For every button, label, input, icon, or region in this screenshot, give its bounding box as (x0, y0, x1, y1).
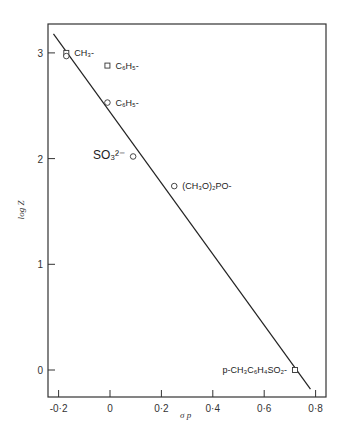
y-tick-label: 2 (37, 154, 43, 165)
fit-line (53, 34, 310, 389)
point-label: CH₃- (74, 48, 94, 58)
data-point-square (293, 368, 298, 373)
x-tick-label: 0·6 (257, 403, 272, 414)
data-point-circle (105, 100, 111, 106)
x-axis-label: σ p (180, 410, 192, 420)
plot-frame (48, 24, 326, 397)
y-tick-label: 3 (37, 48, 43, 59)
data-point-circle (130, 154, 136, 160)
point-label: C₆H₅- (115, 61, 138, 71)
x-tick-label: -0·2 (50, 403, 68, 414)
data-point-circle (171, 183, 177, 189)
point-label: SO₃²⁻ (93, 148, 125, 162)
y-tick-label: 1 (37, 259, 43, 270)
point-label: p-CH₃C₆H₄SO₂- (223, 365, 287, 375)
y-axis-label: log Z (16, 200, 26, 220)
point-label: (CH₃O)₂PO- (182, 181, 231, 191)
data-point-square (105, 63, 110, 68)
y-tick-label: 0 (37, 365, 43, 376)
chart: -0·200·20·40·60·8 0123 CH₃-C₆H₅-C₆H₅-SO₃… (0, 0, 344, 443)
x-tick-label: 0·8 (308, 403, 323, 414)
point-label: C₆H₅- (115, 98, 138, 108)
data-point-circle (64, 53, 70, 59)
x-tick-label: 0 (107, 403, 113, 414)
x-tick-label: 0·4 (206, 403, 221, 414)
x-tick-label: 0·2 (154, 403, 169, 414)
